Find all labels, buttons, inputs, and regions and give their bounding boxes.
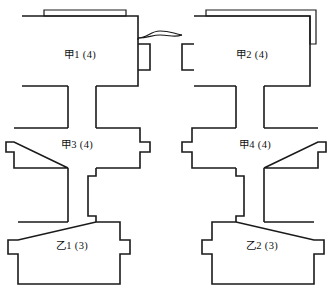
unit-label-yi-2: 乙2 (3) — [246, 240, 279, 252]
yi2-outline — [202, 222, 324, 284]
unit-label-jia-3: 甲3 (4) — [61, 139, 94, 151]
jia1-roof-rail — [44, 10, 126, 16]
yi1-outline — [8, 222, 130, 284]
unit-label-jia-2: 甲2 (4) — [236, 49, 269, 61]
jia2-roof-rail — [206, 10, 316, 44]
plan-drawing: 甲1 (4) 甲2 (4) 甲3 (4) 甲4 (4) 乙1 (3) 乙2 (3… — [0, 0, 332, 294]
unit-label-yi-1: 乙1 (3) — [56, 240, 89, 252]
jia2-left-tab — [182, 44, 194, 70]
unit-label-jia-1: 甲1 (4) — [64, 49, 97, 61]
corridor-jia4-yi2-left-wall — [236, 168, 244, 222]
unit-label-jia-4: 甲4 (4) — [239, 139, 272, 151]
corridor-jia3-yi1-right-wall — [88, 168, 96, 222]
diagram-canvas: 甲1 (4) 甲2 (4) 甲3 (4) 甲4 (4) 乙1 (3) 乙2 (3… — [0, 0, 332, 294]
jia1-right-tab — [138, 44, 150, 70]
